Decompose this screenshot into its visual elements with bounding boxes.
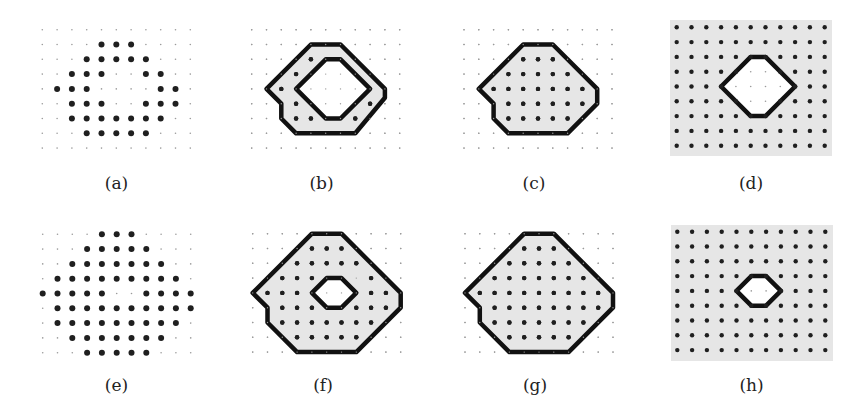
occupied-point	[114, 305, 120, 311]
grid-point	[538, 233, 539, 234]
grid-point	[251, 147, 252, 148]
occupied-point	[675, 348, 679, 352]
grid-point	[463, 59, 464, 60]
occupied-point	[764, 304, 768, 308]
grid-point	[583, 233, 584, 234]
occupied-point	[536, 116, 540, 120]
grid-point	[384, 59, 385, 60]
occupied-point	[690, 244, 694, 248]
grid-point	[479, 351, 480, 352]
grid-point	[597, 118, 598, 119]
grid-point	[538, 351, 539, 352]
occupied-point	[690, 348, 694, 352]
grid-point	[295, 59, 296, 60]
grid-point	[464, 337, 465, 338]
occupied-point	[295, 276, 299, 280]
occupied-point	[719, 84, 723, 88]
occupied-point	[764, 259, 768, 263]
grid-point	[267, 263, 268, 264]
occupied-point	[99, 276, 105, 282]
grid-point	[463, 88, 464, 89]
occupied-point	[99, 231, 105, 237]
grid-point	[266, 147, 267, 148]
occupied-point	[84, 261, 90, 267]
occupied-point	[596, 306, 600, 310]
grid-point	[552, 29, 553, 30]
occupied-point	[113, 42, 119, 48]
occupied-point	[295, 291, 299, 295]
grid-point	[598, 351, 599, 352]
grid-point	[567, 59, 568, 60]
grid-point	[42, 278, 44, 280]
occupied-point	[675, 25, 679, 29]
panel-label-a: (a)	[87, 173, 147, 193]
grid-point	[611, 147, 612, 148]
occupied-point	[734, 25, 738, 29]
grid-point	[355, 103, 356, 104]
occupied-point	[793, 25, 797, 29]
occupied-point	[69, 86, 75, 92]
panel-h	[671, 225, 833, 361]
occupied-point	[158, 101, 164, 107]
occupied-point	[55, 276, 61, 282]
occupied-point	[808, 304, 812, 308]
occupied-point	[749, 144, 753, 148]
grid-point	[493, 29, 494, 30]
occupied-point	[764, 230, 768, 234]
grid-point	[523, 133, 524, 134]
occupied-point	[763, 40, 767, 44]
occupied-point	[69, 116, 75, 122]
grid-point	[252, 322, 253, 323]
occupied-point	[309, 57, 313, 61]
grid-point	[56, 147, 58, 149]
grid-point	[493, 44, 494, 45]
occupied-point	[143, 261, 149, 267]
grid-point	[325, 73, 326, 74]
grid-point	[190, 278, 192, 280]
grid-point	[369, 118, 370, 119]
grid-point	[583, 337, 584, 338]
occupied-point	[823, 333, 827, 337]
occupied-point	[720, 304, 724, 308]
grid-point	[282, 233, 283, 234]
occupied-point	[354, 261, 358, 265]
occupied-point	[675, 129, 679, 133]
grid-point	[42, 103, 44, 105]
occupied-point	[734, 244, 738, 248]
grid-point	[780, 86, 782, 88]
occupied-point	[734, 333, 738, 337]
occupied-point	[689, 70, 693, 74]
occupied-point	[552, 291, 556, 295]
grid-point	[56, 133, 58, 135]
occupied-point	[158, 291, 164, 297]
occupied-point	[793, 129, 797, 133]
grid-point	[282, 263, 283, 264]
grid-point	[399, 133, 400, 134]
occupied-point	[506, 102, 510, 106]
occupied-point	[793, 114, 797, 118]
occupied-point	[129, 231, 135, 237]
occupied-point	[719, 144, 723, 148]
grid-point	[175, 337, 177, 339]
occupied-point	[40, 291, 46, 297]
grid-point	[356, 233, 357, 234]
grid-point	[494, 337, 495, 338]
grid-point	[42, 88, 44, 90]
grid-point	[251, 103, 252, 104]
grid-point	[311, 351, 312, 352]
occupied-point	[705, 348, 709, 352]
occupied-point	[54, 86, 60, 92]
grid-point	[598, 233, 599, 234]
occupied-point	[705, 289, 709, 293]
grid-point	[356, 351, 357, 352]
grid-point	[72, 352, 74, 354]
grid-point	[400, 292, 401, 293]
grid-point	[340, 73, 341, 74]
grid-point	[175, 29, 177, 31]
grid-point	[252, 277, 253, 278]
grid-point	[326, 233, 327, 234]
occupied-point	[823, 25, 827, 29]
grid-point	[190, 263, 192, 265]
grid-point	[251, 88, 252, 89]
occupied-point	[823, 274, 827, 278]
